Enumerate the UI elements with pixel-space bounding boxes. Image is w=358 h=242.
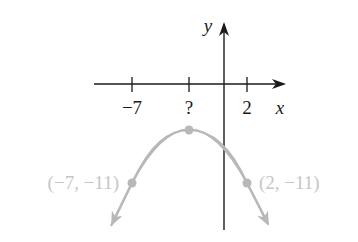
point-label-neg7-neg11: (−7, −11) — [48, 172, 119, 194]
point-label-2-neg11: (2, −11) — [259, 172, 320, 194]
y-axis-label: y — [202, 15, 213, 36]
x-axis-label: x — [275, 97, 285, 118]
tick-label-2: 2 — [242, 97, 252, 118]
tick-label-vertex-unknown: ? — [185, 97, 193, 118]
tick-label-neg7: −7 — [122, 97, 142, 118]
parabola-diagram: −7 ? 2 x y (−7, −11) (2, −11) — [0, 0, 358, 242]
point-2-neg11 — [243, 179, 252, 188]
point-neg7-neg11 — [128, 179, 137, 188]
vertex-point — [185, 126, 194, 135]
